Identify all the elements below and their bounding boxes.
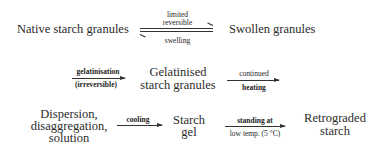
edge-label-gelatinisation: gelatinisation xyxy=(70,68,126,76)
node-swollen-granules: Swollen granules xyxy=(229,23,315,36)
node-retrograded-line2: starch xyxy=(302,125,368,138)
edge-label-reversible: reversible xyxy=(150,19,205,27)
edge-label-cooling: cooling xyxy=(117,116,159,124)
arrow-gelatinisation xyxy=(72,78,125,79)
node-dispersion-line3: solution xyxy=(28,132,110,145)
edge-label-standing-at: standing at xyxy=(226,117,284,125)
node-gelatinised-line2: starch granules xyxy=(138,79,218,92)
arrow-continued-heating xyxy=(227,80,279,81)
arrow-standing-low-temp xyxy=(225,126,285,127)
arrow-forward-swelling xyxy=(140,28,213,29)
node-native-starch-granules: Native starch granules xyxy=(17,23,129,36)
arrow-reverse-swelling xyxy=(140,31,213,32)
edge-label-irreversible: (irreversible) xyxy=(70,81,122,89)
arrow-cooling xyxy=(117,125,162,126)
node-starch-gel-line2: gel xyxy=(170,126,208,139)
edge-label-heating: heating xyxy=(228,84,280,92)
edge-label-swelling: swelling xyxy=(150,37,205,45)
edge-label-low-temp: low temp. (5 °C) xyxy=(222,130,288,138)
edge-label-continued: continued xyxy=(228,70,280,78)
